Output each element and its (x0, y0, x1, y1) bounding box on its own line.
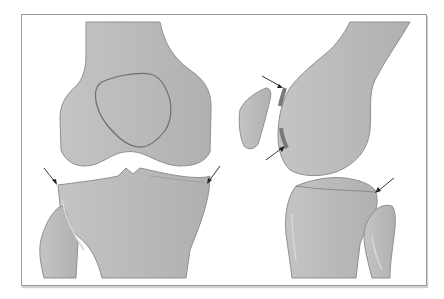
knee-diagram (0, 0, 444, 299)
arrow-patellofemoral-upper (262, 76, 283, 88)
arrow-tibiofemoral-lateral (375, 178, 394, 193)
arrow-medial-joint (44, 168, 57, 185)
femur-anterior (60, 22, 211, 166)
lateral-view (239, 22, 410, 278)
arrow-lateral-joint (207, 166, 220, 184)
patella-lateral (239, 88, 271, 149)
tibia-lateral (285, 177, 377, 278)
femur-lateral (278, 22, 410, 176)
tibia-anterior (58, 168, 210, 278)
anterior-view (40, 22, 220, 278)
